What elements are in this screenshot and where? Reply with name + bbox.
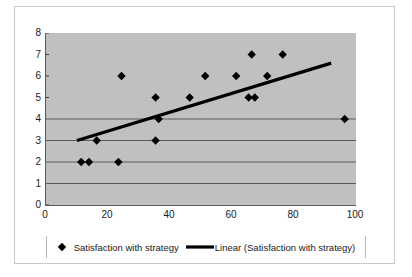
y-axis: 8 7 6 5 4 3 2 1 0 [22,33,41,205]
data-point [85,158,93,166]
x-tick-label: 80 [278,209,308,220]
y-tick-label: 2 [25,157,41,167]
data-point [151,93,159,101]
line-marker-icon [186,242,214,252]
diamond-marker-icon [57,242,67,252]
scatter-points [77,50,349,166]
x-tick-label: 40 [154,209,184,220]
legend-entry-scatter[interactable]: Satisfaction with strategy [57,242,179,253]
legend-entry-trendline[interactable]: Linear (Satisfaction with strategy) [186,242,355,253]
y-tick-label: 4 [25,114,41,124]
y-tick-label: 7 [25,50,41,60]
plot-area [45,33,356,206]
data-point [77,158,85,166]
gridlines [46,119,356,184]
data-point [279,50,287,58]
legend-label-trendline: Linear (Satisfaction with strategy) [215,242,355,253]
y-tick-label: 8 [25,28,41,38]
data-point [248,50,256,58]
plot-canvas [46,33,356,205]
data-point [232,72,240,80]
x-tick-label: 100 [340,209,370,220]
data-point [263,72,271,80]
y-tick-label: 3 [25,136,41,146]
x-axis: 0 20 40 60 80 100 [45,209,355,223]
x-tick-label: 20 [92,209,122,220]
y-tick-label: 5 [25,93,41,103]
data-point [117,72,125,80]
data-point [114,158,122,166]
legend-label-scatter: Satisfaction with strategy [74,242,179,253]
y-tick-label: 1 [25,179,41,189]
data-point [93,136,101,144]
x-tick-label: 0 [30,209,60,220]
chart-legend: Satisfaction with strategy Linear (Satis… [46,236,366,258]
data-point [151,136,159,144]
scatter-chart: 8 7 6 5 4 3 2 1 0 [0,0,412,277]
y-tick-label: 6 [25,71,41,81]
data-point [201,72,209,80]
x-tick-label: 60 [216,209,246,220]
data-point [341,115,349,123]
data-point [251,93,259,101]
data-point [186,93,194,101]
